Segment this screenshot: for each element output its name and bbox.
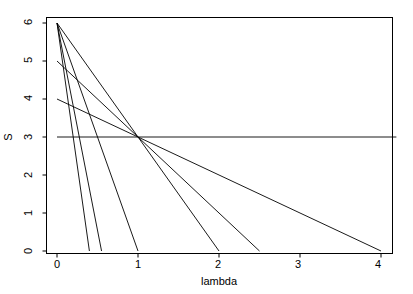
chart-background <box>0 0 413 294</box>
x-tick-label-1: 1 <box>135 258 141 270</box>
y-tick-label-4: 4 <box>22 95 34 101</box>
y-tick-label-2: 2 <box>22 172 34 178</box>
chart-svg: 0 1 2 3 4 0 1 2 3 4 5 6 lambda S <box>0 0 413 294</box>
chart-plot-area: 0 1 2 3 4 0 1 2 3 4 5 6 lambda S <box>0 0 413 294</box>
x-axis-title: lambda <box>201 275 238 287</box>
x-tick-label-4: 4 <box>375 258 381 270</box>
y-tick-label-3: 3 <box>22 134 34 140</box>
y-tick-label-6: 6 <box>22 19 34 25</box>
y-tick-label-5: 5 <box>22 57 34 63</box>
y-tick-label-1: 1 <box>22 210 34 216</box>
x-tick-label-2: 2 <box>215 258 221 270</box>
x-tick-label-3: 3 <box>295 258 301 270</box>
x-tick-label-0: 0 <box>54 258 60 270</box>
y-tick-label-0: 0 <box>22 248 34 254</box>
y-axis-title: S <box>2 133 14 140</box>
